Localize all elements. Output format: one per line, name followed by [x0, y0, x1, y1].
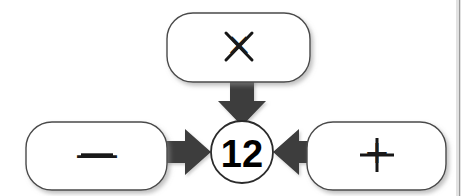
minus-node-label: — — [77, 131, 117, 175]
minus-node[interactable]: — — [26, 122, 167, 190]
result-node[interactable]: 12 — [211, 121, 273, 183]
right-edge-divider — [457, 0, 460, 196]
multiply-node-label: × — [227, 23, 250, 67]
result-node-value: 12 — [221, 133, 263, 175]
diagram-canvas: × — + 12 — [0, 0, 471, 196]
multiply-node[interactable]: × — [167, 13, 310, 82]
operation-diagram: × — + 12 — [0, 0, 471, 196]
plus-node-label: + — [365, 131, 388, 175]
plus-node[interactable]: + — [307, 122, 446, 190]
